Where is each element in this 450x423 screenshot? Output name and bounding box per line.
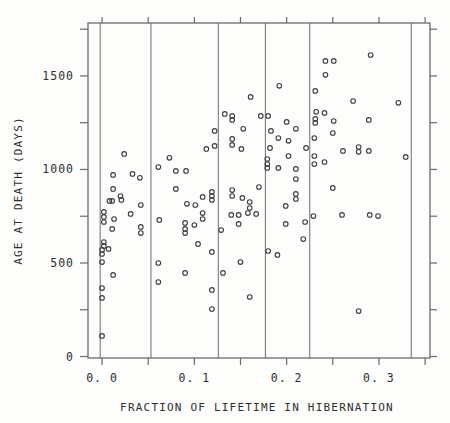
data-point bbox=[311, 214, 316, 219]
data-point bbox=[239, 147, 244, 152]
data-point bbox=[303, 220, 308, 225]
data-point bbox=[304, 146, 309, 151]
data-point bbox=[294, 127, 299, 132]
data-point bbox=[376, 214, 381, 219]
data-point bbox=[247, 295, 252, 300]
data-point bbox=[102, 215, 107, 220]
data-point bbox=[367, 213, 372, 218]
data-point bbox=[284, 120, 289, 125]
data-point bbox=[331, 59, 336, 64]
data-point bbox=[230, 188, 235, 193]
data-point bbox=[331, 186, 336, 191]
data-point bbox=[138, 176, 143, 181]
data-point bbox=[236, 213, 241, 218]
data-point bbox=[204, 147, 209, 152]
data-point bbox=[128, 212, 133, 217]
data-point bbox=[111, 187, 116, 192]
data-point bbox=[193, 203, 198, 208]
data-point bbox=[130, 172, 135, 177]
plot-frame bbox=[88, 23, 430, 358]
x-tick-label: 0. 2 bbox=[271, 371, 303, 385]
data-point bbox=[396, 101, 401, 106]
data-point bbox=[312, 154, 317, 159]
data-point bbox=[200, 217, 205, 222]
data-point bbox=[139, 225, 144, 230]
y-tick-label: 0 bbox=[66, 350, 74, 364]
data-point bbox=[156, 261, 161, 266]
data-point bbox=[283, 222, 288, 227]
data-point bbox=[246, 211, 251, 216]
data-point bbox=[276, 166, 281, 171]
data-point bbox=[269, 129, 274, 134]
data-point bbox=[240, 196, 245, 201]
data-point bbox=[294, 167, 299, 172]
data-point bbox=[111, 273, 116, 278]
x-tick-label: 0. 1 bbox=[178, 371, 210, 385]
data-point bbox=[236, 222, 241, 227]
data-point bbox=[248, 95, 253, 100]
data-point bbox=[254, 212, 259, 217]
data-point bbox=[223, 112, 228, 117]
data-point bbox=[156, 280, 161, 285]
data-point bbox=[294, 192, 299, 197]
data-point bbox=[192, 223, 197, 228]
data-point bbox=[200, 195, 205, 200]
data-point bbox=[275, 253, 280, 258]
data-point bbox=[212, 144, 217, 149]
data-point bbox=[156, 165, 161, 170]
data-point bbox=[351, 99, 356, 104]
data-point bbox=[313, 89, 318, 94]
data-point bbox=[157, 218, 162, 223]
data-point bbox=[314, 110, 319, 115]
x-tick-label: 0. 0 bbox=[86, 371, 118, 385]
data-point bbox=[247, 200, 252, 205]
data-point bbox=[185, 202, 190, 207]
y-tick-label: 1000 bbox=[42, 162, 74, 176]
scatter-plot-svg: 0. 00. 10. 20. 3050010001500FRACTION OF … bbox=[0, 0, 450, 423]
data-point bbox=[331, 119, 336, 124]
data-point bbox=[183, 221, 188, 226]
data-point bbox=[323, 59, 328, 64]
data-point bbox=[276, 136, 281, 141]
data-point bbox=[341, 149, 346, 154]
data-point bbox=[212, 129, 217, 134]
data-point bbox=[294, 177, 299, 182]
data-point bbox=[106, 247, 111, 252]
data-point bbox=[102, 210, 107, 215]
data-point bbox=[112, 217, 117, 222]
data-point bbox=[312, 162, 317, 167]
data-point bbox=[367, 149, 372, 154]
hibernation-scatter-figure: 0. 00. 10. 20. 3050010001500FRACTION OF … bbox=[0, 0, 450, 423]
data-point bbox=[367, 118, 372, 123]
data-point bbox=[139, 231, 144, 236]
data-point bbox=[111, 173, 116, 178]
data-point bbox=[277, 84, 282, 89]
data-point bbox=[210, 250, 215, 255]
data-point bbox=[210, 288, 215, 293]
data-point bbox=[322, 111, 327, 116]
data-point bbox=[230, 194, 235, 199]
y-tick-label: 1500 bbox=[42, 69, 74, 83]
data-point bbox=[312, 136, 317, 141]
data-point bbox=[196, 242, 201, 247]
data-point bbox=[286, 139, 291, 144]
y-tick-label: 500 bbox=[50, 256, 74, 270]
data-point bbox=[229, 213, 234, 218]
data-point bbox=[247, 206, 252, 211]
data-point bbox=[238, 260, 243, 265]
data-point bbox=[356, 150, 361, 155]
data-point bbox=[230, 137, 235, 142]
data-point bbox=[286, 154, 291, 159]
data-point bbox=[294, 197, 299, 202]
data-point bbox=[210, 307, 215, 312]
y-axis-title: AGE AT DEATH (DAYS) bbox=[12, 116, 25, 265]
data-point bbox=[268, 146, 273, 151]
data-point bbox=[283, 204, 288, 209]
x-axis-title: FRACTION OF LIFETIME IN HIBERNATION bbox=[120, 401, 394, 414]
data-point bbox=[139, 203, 144, 208]
data-point bbox=[184, 169, 189, 174]
data-point bbox=[174, 169, 179, 174]
data-point bbox=[122, 152, 127, 157]
data-point bbox=[323, 73, 328, 78]
data-point bbox=[241, 127, 246, 132]
